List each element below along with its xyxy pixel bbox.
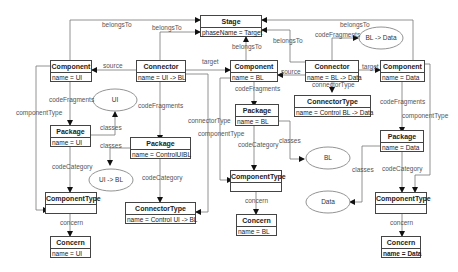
componenttype-bl-box[interactable]: ComponentType: [230, 170, 282, 192]
edge-label-target: target: [202, 58, 219, 66]
box-attr: name = Control BL -> Data: [295, 108, 370, 118]
edge-label-code-fragments: codeFragments: [380, 98, 425, 106]
connector-ui-bl-box[interactable]: Connector name = UI -> BL: [136, 60, 186, 82]
edge-label-code-category: codeCategory: [52, 163, 92, 171]
edge-label-classes: classes: [100, 142, 122, 150]
box-attr: name = UI: [51, 138, 90, 148]
edge-label-belongs-to: belongsTo: [102, 21, 132, 29]
package-bl-box[interactable]: Package name = BL: [235, 104, 279, 126]
edge-label-concern: concern: [245, 197, 268, 205]
box-title: Package: [236, 105, 278, 117]
box-attr: name = BL: [231, 73, 277, 83]
edge-label-code-fragments: codeFragments: [235, 85, 280, 93]
edge-label-source: source: [103, 62, 123, 70]
box-attr: name = UI: [51, 73, 91, 83]
edge-label-code-category: codeCategory: [142, 174, 182, 182]
stage-box[interactable]: Stage phaseName = Target: [200, 15, 262, 37]
edge-label-belongs-to: belongsTo: [152, 24, 182, 32]
edge-label-target: target: [362, 63, 379, 71]
package-ui-box[interactable]: Package name = UI: [50, 125, 91, 147]
edge-label-connector-type: connectorType: [188, 117, 231, 125]
box-attr: name = ControlUIBL: [131, 150, 190, 160]
ellipse-ui-label: UI: [93, 96, 137, 104]
box-attr: [46, 205, 96, 215]
box-title: ConnectorType: [295, 96, 370, 108]
concern-data-box[interactable]: Concern name = Data: [381, 236, 421, 258]
concern-bl-box[interactable]: Concern name = BL: [236, 214, 277, 236]
box-title: ConnectorType: [126, 203, 195, 215]
edge-label-code-fragments: codeFragments: [49, 96, 94, 104]
box-attr: name = BL: [236, 117, 278, 127]
box-title: Stage: [201, 16, 261, 28]
connector-bl-data-box[interactable]: Connector name = BL -> Data: [305, 60, 359, 82]
edge-label-component-type: componentType: [402, 112, 448, 120]
edge-label-classes: classes: [100, 124, 122, 132]
edge-label-classes: classes: [279, 137, 301, 145]
connectortype-ui-bl-box[interactable]: ConnectorType name = Control UI -> BL: [125, 202, 196, 224]
ellipse-ui-bl-label: UI -> BL: [89, 176, 133, 184]
box-title: Package: [381, 131, 423, 143]
edge-label-component-type: componentType: [198, 130, 244, 138]
componenttype-ui-box[interactable]: ComponentType: [45, 192, 97, 214]
box-title: Concern: [51, 237, 90, 249]
edge-label-belongs-to: belongsTo: [273, 37, 303, 45]
edge-label-component-type: componentType: [16, 109, 62, 117]
box-title: Concern: [382, 237, 420, 249]
object-diagram: UI UI -> BL BL BL -> Data Data Stage pha…: [0, 0, 458, 272]
edge-label-concern: concern: [390, 219, 413, 227]
box-title: ComponentType: [46, 193, 96, 205]
box-title: Connector: [137, 61, 185, 73]
box-attr: [231, 183, 281, 193]
box-attr: name = BL: [237, 227, 276, 237]
concern-ui-box[interactable]: Concern name = UI: [50, 236, 91, 258]
edge-label-belongs-to: belongsTo: [232, 43, 262, 51]
edge-label-source: source: [281, 68, 301, 76]
component-bl-box[interactable]: Component name = BL: [230, 60, 278, 82]
box-title: Concern: [237, 215, 276, 227]
box-title: Component: [51, 61, 91, 73]
edge-label-connector-type: connectorType: [312, 81, 355, 89]
ellipse-bl-label: BL: [306, 154, 350, 162]
edge-label-code-fragments: codeFragments: [138, 102, 183, 110]
box-attr: name = Control UI -> BL: [126, 215, 195, 225]
component-ui-box[interactable]: Component name = UI: [50, 60, 92, 82]
box-title: Package: [131, 138, 190, 150]
package-data-box[interactable]: Package name = Data: [380, 130, 424, 152]
connectortype-bl-data-box[interactable]: ConnectorType name = Control BL -> Data: [294, 95, 371, 117]
componenttype-data-box[interactable]: ComponentType: [375, 192, 427, 214]
box-title: Connector: [306, 61, 358, 73]
box-attr: name = UI: [51, 249, 90, 259]
edge-label-classes: classes: [352, 166, 374, 174]
box-attr: name = Data: [382, 249, 420, 259]
edge-label-code-fragments: codeFragments: [315, 31, 360, 39]
box-title: Component: [381, 61, 424, 73]
component-data-box[interactable]: Component name = Data: [380, 60, 425, 82]
edge-label-belongs-to: belongsTo: [340, 21, 370, 29]
edge-label-concern: concern: [60, 219, 83, 227]
box-title: Component: [231, 61, 277, 73]
box-attr: name = Data: [381, 143, 423, 153]
edge-label-code-category: codeCategory: [382, 165, 422, 173]
box-title: ComponentType: [231, 171, 281, 183]
package-controluibl-box[interactable]: Package name = ControlUIBL: [130, 137, 191, 159]
box-title: Package: [51, 126, 90, 138]
box-title: ComponentType: [376, 193, 426, 205]
ellipse-data-label: Data: [306, 198, 350, 206]
box-attr: [376, 205, 426, 215]
box-attr: name = Data: [381, 73, 424, 83]
ellipse-bl-data-label: BL -> Data: [359, 34, 403, 42]
edge-label-code-category: codeCategory: [238, 141, 278, 149]
box-attr: name = UI -> BL: [137, 73, 185, 83]
box-attr: phaseName = Target: [201, 28, 261, 38]
